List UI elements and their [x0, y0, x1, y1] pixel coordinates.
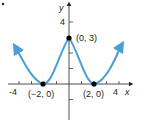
- point-0-3: [66, 35, 71, 40]
- y-ticks: [69, 22, 73, 100]
- point-label-2-0: (2, 0): [83, 89, 104, 99]
- y-tick-label-4: 4: [60, 17, 65, 27]
- y-axis-label: y: [58, 3, 64, 13]
- point-2-0: [91, 81, 96, 86]
- function-curve: [16, 38, 121, 84]
- bullet-marker: [2, 3, 4, 5]
- x-tick-label-4: 4: [113, 87, 118, 97]
- curve-right-arrow-icon: [118, 46, 121, 51]
- point-neg2-0: [40, 81, 45, 86]
- graph: y 4 (0, 3) -4 (−2, 0) (2, 0) 4 x: [0, 0, 142, 122]
- x-tick-label-neg4: -4: [9, 87, 17, 97]
- point-label-0-3: (0, 3): [76, 33, 97, 43]
- curve-left-arrow-icon: [16, 48, 19, 53]
- x-axis-label: x: [124, 87, 130, 97]
- point-label-neg2-0: (−2, 0): [28, 89, 54, 99]
